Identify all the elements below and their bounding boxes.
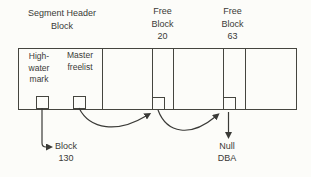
cell-divider xyxy=(173,48,174,110)
high-water-mark-slot xyxy=(36,96,49,109)
free-block-63-slot xyxy=(223,97,236,110)
arrow-free-block-20-to-free-block-63-icon xyxy=(158,110,215,130)
cell-divider xyxy=(245,48,246,110)
segment-diagram: Segment Header Block Free Block 20 Free … xyxy=(0,0,311,177)
free-block-63-label: Free Block 63 xyxy=(210,5,255,43)
segment-header-block-label: Segment Header Block xyxy=(16,7,108,32)
high-water-mark-label: High- water mark xyxy=(25,51,53,86)
cell-divider xyxy=(102,48,103,110)
null-dba-label: Null DBA xyxy=(211,140,243,164)
arrow-high-water-to-block-130-icon xyxy=(42,108,47,147)
free-block-20-label: Free Block 20 xyxy=(140,5,185,43)
master-freelist-label: Master freelist xyxy=(61,50,99,73)
free-block-20-slot xyxy=(152,97,165,110)
master-freelist-slot xyxy=(73,96,86,109)
arrow-master-freelist-to-free-block-20-icon xyxy=(79,108,146,127)
block-130-label: Block 130 xyxy=(50,140,82,164)
